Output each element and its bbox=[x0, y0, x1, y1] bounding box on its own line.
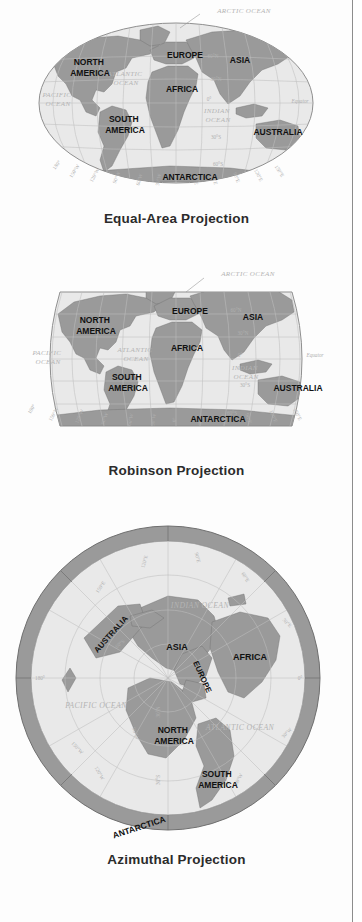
equal-area-projection-svg: 60°N 30°N 0° 30°S 60°S Equator 180° 150°… bbox=[0, 0, 353, 205]
caption-robinson: Robinson Projection bbox=[0, 463, 353, 478]
continent-label-north-america: NORTH AMERICA bbox=[70, 57, 110, 78]
continent-label-antarctica: ANTARCTICA bbox=[162, 172, 217, 182]
map-canvas-equal-area: 60°N 30°N 0° 30°S 60°S Equator 180° 150°… bbox=[0, 0, 353, 205]
lat-label-0: 0° bbox=[207, 96, 212, 102]
lat-label-60n: 60°N bbox=[207, 53, 218, 59]
ocean-label-arctic: ARCTIC OCEAN bbox=[220, 270, 275, 278]
continent-label-africa: AFRICA bbox=[233, 652, 267, 662]
continent-label-asia: ASIA bbox=[166, 642, 188, 652]
lat-label-60n: 60°N bbox=[230, 307, 241, 313]
lon-label-120e: 120°E bbox=[253, 168, 264, 182]
continent-label-africa: AFRICA bbox=[166, 84, 198, 94]
lon-label-150e: 150°E bbox=[274, 164, 286, 178]
robinson-projection-svg: 60°N 30°N 0° 30°S 60°S Equator 180° 150°… bbox=[0, 262, 353, 457]
azimuthal-projection-svg: 180° 0° 30°N 0° 30°S 60°S 150°W 120°W 90… bbox=[0, 512, 353, 850]
arctic-ocean-leader-line bbox=[186, 278, 204, 292]
lon-label-150w: 150°W bbox=[68, 163, 81, 179]
lon-label-180: 180° bbox=[35, 675, 45, 681]
lat-label-60s: 60°S bbox=[213, 161, 223, 167]
lat-label-30n: 30°N bbox=[155, 706, 161, 717]
landmass-new-zealand bbox=[310, 146, 320, 158]
ocean-label-indian: INDIAN OCEAN bbox=[231, 364, 260, 381]
lon-label-30w: 30°W bbox=[154, 173, 162, 186]
ocean-label-arctic: ARCTIC OCEAN bbox=[216, 7, 271, 15]
continent-label-europe: EUROPE bbox=[167, 50, 203, 60]
map-canvas-azimuthal: 180° 0° 30°N 0° 30°S 60°S 150°W 120°W 90… bbox=[0, 512, 353, 850]
equator-label: Equator bbox=[305, 352, 324, 358]
caption-azimuthal: Azimuthal Projection bbox=[0, 852, 353, 867]
lat-label-30s: 30°S bbox=[155, 775, 161, 785]
ocean-label-indian: INDIAN OCEAN bbox=[170, 601, 230, 610]
continent-label-asia: ASIA bbox=[230, 55, 250, 65]
lon-label-180: 180° bbox=[51, 159, 62, 170]
map-canvas-robinson: 60°N 30°N 0° 30°S 60°S Equator 180° 150°… bbox=[0, 262, 353, 457]
lon-label-180: 180° bbox=[26, 403, 36, 415]
continent-label-south-america: SOUTH AMERICA bbox=[105, 114, 145, 135]
lat-label-30n: 30°N bbox=[237, 330, 248, 336]
caption-equal-area: Equal-Area Projection bbox=[0, 211, 353, 226]
continent-label-antarctica: ANTARCTICA bbox=[190, 414, 245, 424]
page-right-margin bbox=[353, 0, 362, 922]
lon-label-0: 0° bbox=[298, 675, 303, 681]
lat-label-0: 0° bbox=[238, 352, 243, 358]
continent-label-south-america: SOUTH AMERICA bbox=[198, 769, 238, 790]
ocean-label-pacific: PACIFIC OCEAN bbox=[64, 701, 127, 710]
ocean-label-indian: INDIAN OCEAN bbox=[203, 107, 232, 124]
continent-label-south-america: SOUTH AMERICA bbox=[108, 372, 148, 393]
ocean-label-pacific: PACIFIC OCEAN bbox=[32, 349, 64, 366]
lat-label-30s: 30°S bbox=[211, 134, 221, 140]
map-figure-robinson: 60°N 30°N 0° 30°S 60°S Equator 180° 150°… bbox=[0, 262, 353, 478]
equator-label: Equator bbox=[290, 98, 309, 104]
map-figure-equal-area: 60°N 30°N 0° 30°S 60°S Equator 180° 150°… bbox=[0, 0, 353, 226]
map-figure-azimuthal: 180° 0° 30°N 0° 30°S 60°S 150°W 120°W 90… bbox=[0, 512, 353, 867]
lat-label-30n: 30°N bbox=[210, 76, 221, 82]
lon-label-0: 0° bbox=[171, 417, 177, 422]
lat-label-30s: 30°S bbox=[240, 382, 250, 388]
landmass-new-zealand bbox=[312, 400, 322, 412]
continent-label-north-america: NORTH AMERICA bbox=[76, 315, 116, 336]
continent-label-asia: ASIA bbox=[243, 312, 263, 322]
ocean-label-pacific: PACIFIC OCEAN bbox=[42, 91, 74, 108]
lon-label-120w: 120°W bbox=[88, 167, 100, 183]
continent-label-australia: AUSTRALIA bbox=[273, 383, 322, 393]
continent-label-europe: EUROPE bbox=[172, 306, 208, 316]
continent-label-africa: AFRICA bbox=[171, 343, 203, 353]
continent-label-australia: AUSTRALIA bbox=[253, 127, 302, 137]
ocean-label-atlantic: ATLANTIC OCEAN bbox=[205, 723, 275, 732]
continent-label-north-america: NORTH AMERICA bbox=[154, 725, 194, 746]
